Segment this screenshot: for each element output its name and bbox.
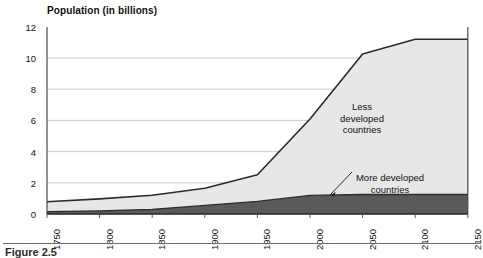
annotation-more-line-2: countries: [356, 184, 424, 196]
annotation-less-line-2: developed: [340, 113, 384, 125]
x-tick-2050: 2050: [367, 229, 378, 250]
x-tick-1900: 1900: [209, 229, 220, 250]
x-tick-2000: 2000: [314, 229, 325, 250]
figure-caption: Figure 2.5: [5, 246, 57, 258]
x-tick-1850: 1850: [156, 229, 167, 250]
x-tick-2150: 2150: [472, 229, 483, 250]
annotation-more-developed-countries: More developed countries: [356, 172, 424, 195]
x-tick-1950: 1950: [261, 229, 272, 250]
x-axis-labels: 1750 1800 1850 1900 1950 2000 2050 2100 …: [0, 0, 483, 258]
figure-population-chart: Population (in billions): [0, 0, 483, 258]
annotation-more-line-1: More developed: [356, 172, 424, 184]
caption-divider: [3, 243, 480, 244]
annotation-less-developed-countries: Less developed countries: [340, 101, 384, 136]
annotation-less-line-3: countries: [340, 124, 384, 136]
annotation-less-line-1: Less: [340, 101, 384, 113]
x-tick-2100: 2100: [419, 229, 430, 250]
x-tick-1800: 1800: [104, 229, 115, 250]
